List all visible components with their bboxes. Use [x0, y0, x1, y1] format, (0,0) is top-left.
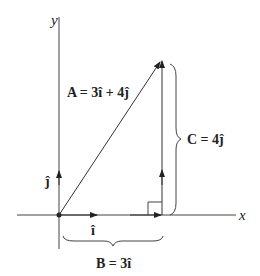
right-angle-marker [148, 202, 162, 215]
x-axis-label: x [238, 207, 246, 223]
unit-vector-i-label: î [90, 223, 96, 238]
vector-b-label: B = 3î [96, 256, 132, 271]
vector-c-label: C = 4ĵ [187, 132, 224, 147]
vector-a-label: A = 3î + 4ĵ [67, 85, 129, 100]
y-axis-label: y [49, 12, 58, 28]
unit-vector-j-label: ĵ [44, 174, 50, 189]
vector-diagram: y x A = 3î + 4ĵ C = 4ĵ B = 3î ĵ î [0, 0, 260, 276]
brace-b [63, 236, 163, 246]
brace-c [170, 64, 181, 215]
